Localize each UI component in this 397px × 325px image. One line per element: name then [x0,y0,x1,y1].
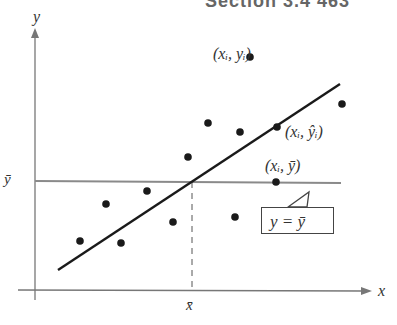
xbar-label: x̄ [186,298,193,313]
callout-pointer [288,192,309,207]
x-axis-arrow-icon [361,287,372,295]
ybar-label: ȳ [4,172,11,187]
predicted-point-label: (xᵢ, ŷᵢ) [285,124,323,140]
callout-label: y = ȳ [270,212,305,232]
mean-line [35,181,341,183]
regression-diagram [0,0,397,325]
regression-line [58,84,340,270]
x-axis [18,290,364,291]
callout-box: y = ȳ [261,207,334,234]
x-axis-label: x [378,283,385,299]
mean-point-label: (xᵢ, ȳ) [265,158,300,174]
y-axis-label: y [33,9,40,25]
observed-point-label: (xᵢ, yᵢ) [213,46,251,62]
y-axis-arrow-icon [31,28,39,38]
